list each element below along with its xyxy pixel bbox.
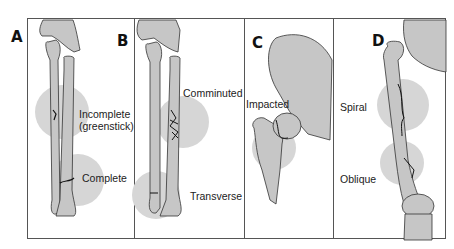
panel-d-bones xyxy=(383,20,446,240)
label-transverse: Transverse xyxy=(190,190,242,202)
label-incomplete: Incomplete xyxy=(79,108,130,120)
panel-letter-d: D xyxy=(372,32,384,50)
panel-c-bones xyxy=(253,35,332,204)
panel-letter-b: B xyxy=(117,32,128,50)
label-impacted: Impacted xyxy=(246,98,289,110)
label-comminuted: Comminuted xyxy=(183,87,243,99)
label-spiral: Spiral xyxy=(340,101,367,113)
panel-letter-c: C xyxy=(252,34,263,52)
label-greenstick: (greenstick) xyxy=(79,120,134,132)
label-oblique: Oblique xyxy=(340,173,376,185)
label-complete: Complete xyxy=(82,172,127,184)
panel-letter-a: A xyxy=(11,28,23,46)
fracture-illustrations xyxy=(0,0,454,249)
